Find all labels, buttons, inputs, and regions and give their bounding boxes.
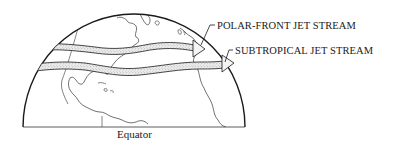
subtropical-arrowhead: [222, 55, 234, 72]
caribbean-islands: [98, 83, 113, 93]
equator-label: Equator: [117, 129, 152, 140]
europe-africa-outline: [180, 28, 226, 127]
british-isles: [178, 30, 185, 35]
polar-front-jet-label: POLAR-FRONT JET STREAM: [217, 21, 356, 32]
jet-stream-diagram: POLAR-FRONT JET STREAM SUBTROPICAL JET S…: [0, 0, 394, 145]
subtropical-jet-label: SUBTROPICAL JET STREAM: [235, 46, 373, 57]
polar-front-arrowhead: [193, 40, 205, 57]
island-outline: [155, 21, 159, 25]
